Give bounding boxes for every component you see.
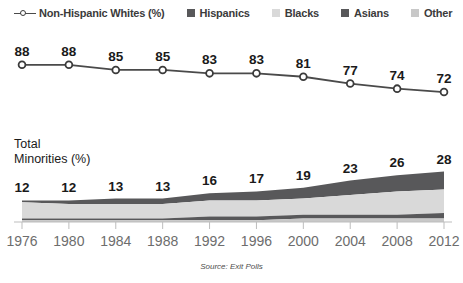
line-value-label: 85 <box>155 49 171 64</box>
line-value-label: 88 <box>61 44 77 59</box>
area-value-label: 17 <box>249 171 264 186</box>
source-note: Source: Exit Polls <box>0 262 463 271</box>
area-title-line2: Minorities (%) <box>14 152 90 166</box>
area-value-label: 19 <box>296 168 311 183</box>
x-axis: 1976198019841988199219962000200420082012 <box>6 222 459 249</box>
line-value-label: 83 <box>202 52 218 67</box>
chart-canvas: 88888585838381777472 1212131316171923262… <box>0 0 463 262</box>
area-value-label: 13 <box>155 179 171 194</box>
area-title-line1: Total <box>14 137 40 151</box>
line-chart-plot: 88888585838381777472 <box>14 44 451 96</box>
x-axis-tick-label: 1996 <box>241 233 272 249</box>
x-axis-tick-label: 1988 <box>147 233 178 249</box>
line-value-label: 83 <box>249 52 265 67</box>
area-value-label: 12 <box>14 180 29 195</box>
x-axis-tick-label: 1976 <box>6 233 37 249</box>
area-value-label: 23 <box>343 161 359 176</box>
area-value-label: 28 <box>436 152 452 167</box>
x-axis-tick-label: 1992 <box>194 233 225 249</box>
line-value-label: 81 <box>296 56 312 71</box>
x-axis-tick-label: 1984 <box>100 233 131 249</box>
chart-figure: Non-Hispanic Whites (%) Hispanics Blacks… <box>0 0 463 283</box>
line-value-label: 74 <box>390 68 406 83</box>
area-value-label: 13 <box>108 179 124 194</box>
line-value-label: 72 <box>436 71 451 86</box>
x-axis-tick-label: 2004 <box>335 233 366 249</box>
x-axis-tick-label: 1980 <box>53 233 84 249</box>
area-value-label: 12 <box>61 180 76 195</box>
line-value-label: 88 <box>14 44 30 59</box>
line-value-label: 77 <box>343 63 358 78</box>
x-axis-tick-label: 2012 <box>428 233 459 249</box>
line-value-label: 85 <box>108 49 124 64</box>
area-value-label: 16 <box>202 173 218 188</box>
x-axis-tick-label: 2000 <box>288 233 319 249</box>
area-value-label: 26 <box>390 155 406 170</box>
x-axis-tick-label: 2008 <box>382 233 413 249</box>
